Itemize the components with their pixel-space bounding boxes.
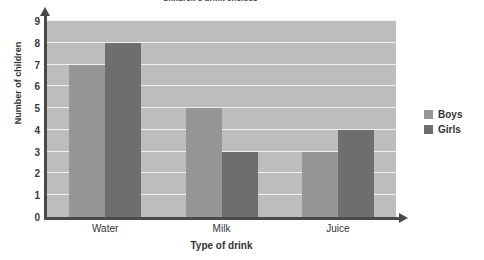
y-tick-label-3: 3	[26, 146, 40, 157]
x-axis-arrow-icon	[399, 213, 408, 223]
y-tick-label-8: 8	[26, 37, 40, 48]
bar-water-boys	[69, 65, 105, 217]
legend-swatch-girls	[424, 125, 433, 134]
plot-area	[47, 21, 396, 217]
legend-item-boys: Boys	[424, 107, 462, 122]
x-tick-label-water: Water	[92, 223, 118, 234]
bar-chart: Children's drink choices Number of child…	[0, 0, 484, 260]
gridline	[47, 20, 396, 21]
y-tick-label-2: 2	[26, 168, 40, 179]
y-tick-label-7: 7	[26, 59, 40, 70]
y-tick-label-4: 4	[26, 124, 40, 135]
chart-legend: BoysGirls	[424, 107, 462, 137]
y-tick-label-9: 9	[26, 16, 40, 27]
x-axis-line	[44, 217, 401, 220]
y-axis-arrow-icon	[40, 7, 50, 16]
chart-title: Children's drink choices	[0, 0, 420, 3]
bar-milk-boys	[186, 108, 222, 217]
bar-juice-girls	[338, 130, 374, 217]
legend-label-girls: Girls	[438, 124, 461, 135]
x-tick-label-milk: Milk	[213, 223, 231, 234]
x-tick-label-juice: Juice	[326, 223, 349, 234]
y-tick-label-6: 6	[26, 81, 40, 92]
y-tick-label-1: 1	[26, 190, 40, 201]
legend-label-boys: Boys	[438, 109, 462, 120]
legend-item-girls: Girls	[424, 122, 462, 137]
y-tick-label-0: 0	[26, 212, 40, 223]
x-axis-title: Type of drink	[47, 240, 396, 251]
bar-juice-boys	[302, 152, 338, 217]
bar-milk-girls	[222, 152, 258, 217]
bar-water-girls	[105, 43, 141, 217]
y-axis-line	[44, 14, 47, 218]
legend-swatch-boys	[424, 110, 433, 119]
y-tick-label-5: 5	[26, 103, 40, 114]
y-axis-tick-labels: 0123456789	[18, 0, 40, 260]
gridline	[47, 42, 396, 43]
